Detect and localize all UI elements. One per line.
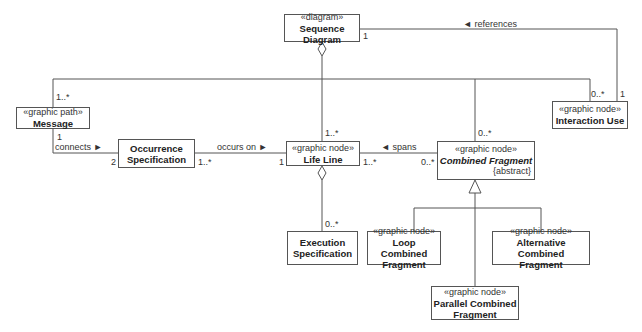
stereotype: «graphic node» [510,226,572,237]
class-name-line1: Loop Combined [368,237,440,259]
composition-diamond-icon [318,166,326,180]
multiplicity-interaction-references: 1 [620,89,625,99]
multiplicity-lifeline-spans: 1..* [363,157,377,167]
class-name-line1: Alternative Combined [493,237,589,259]
class-name: Message [33,118,73,129]
stereotype: «graphic node» [373,226,435,237]
class-name-line2: Fragment [519,259,562,270]
multiplicity-message-connects: 1 [57,132,62,142]
connector-lines [0,0,642,332]
multiplicity-lifeline-occurs-on: 1 [279,157,284,167]
class-name-line2: Fragment [453,309,496,320]
class-sequence-diagram[interactable]: «diagram» Sequence Diagram [284,14,360,42]
class-name-line1: Execution [300,237,345,248]
class-life-line[interactable]: «graphic node» Life Line [286,141,360,166]
stereotype: «graphic node» [455,144,517,155]
abstract-constraint: {abstract} [493,166,534,177]
class-name-line1: Occurrence [130,143,183,154]
stereotype: «graphic path» [23,107,83,118]
class-loop-combined-fragment[interactable]: «graphic node» Loop Combined Fragment [367,231,441,265]
stereotype: «diagram» [301,12,344,23]
multiplicity-combined-spans: 0..* [421,157,435,167]
references-label: ◄ references [463,19,517,29]
multiplicity-lifeline-bus: 1..* [325,128,339,138]
multiplicity-combined-bus: 0..* [478,128,492,138]
references-association-line [360,29,617,101]
multiplicity-execution: 0..* [325,219,339,229]
multiplicity-occurrence-connects: 2 [111,157,116,167]
multiplicity-message-bus: 1..* [56,92,70,102]
class-name: Interaction Use [556,115,625,126]
class-name: Life Line [303,154,342,165]
occurs-on-label: occurs on ► [217,142,267,152]
multiplicity-interaction-bus: 0..* [591,89,605,99]
class-name: Combined Fragment [440,155,532,166]
class-parallel-combined-fragment[interactable]: «graphic node» Parallel Combined Fragmen… [431,286,519,320]
class-interaction-use[interactable]: «graphic node» Interaction Use [552,101,628,129]
stereotype: «graphic node» [292,143,354,154]
class-name-line2: Fragment [382,259,425,270]
class-occurrence-specification[interactable]: Occurrence Specification [118,139,195,168]
multiplicity-occurrence-occurs-on: 1..* [198,157,212,167]
class-combined-fragment[interactable]: «graphic node» Combined Fragment {abstra… [437,141,535,180]
generalization-triangle-icon [469,180,481,193]
stereotype: «graphic node» [559,104,621,115]
spans-label: ◄ spans [381,142,416,152]
class-name-line2: Specification [127,154,186,165]
class-alternative-combined-fragment[interactable]: «graphic node» Alternative Combined Frag… [492,231,590,265]
class-message[interactable]: «graphic path» Message [16,107,90,129]
class-name-line2: Specification [293,248,352,259]
class-name-line1: Parallel Combined [434,298,517,309]
multiplicity-diagram-references: 1 [363,31,368,41]
connects-label: connects ► [55,142,102,152]
class-name: Sequence Diagram [285,23,359,45]
class-execution-specification[interactable]: Execution Specification [287,231,358,265]
stereotype: «graphic node» [444,287,506,298]
